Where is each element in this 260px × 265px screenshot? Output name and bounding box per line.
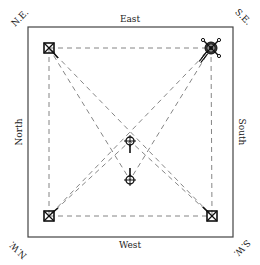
label-sw: S.W. (232, 238, 253, 259)
corner-marker-se (200, 38, 221, 62)
corner-marker-nw (44, 208, 58, 221)
corner-marker-ne (44, 43, 58, 58)
label-north: North (14, 118, 24, 145)
label-nw: N.W. (7, 239, 29, 261)
center-marker-top (124, 135, 136, 153)
label-south: South (237, 119, 247, 146)
label-se: S.E. (233, 7, 253, 27)
sighting-diagram: East West North South N.E. S.E. N.W. S.W… (0, 0, 260, 265)
label-west: West (119, 240, 141, 250)
label-ne: N.E. (9, 7, 30, 28)
corner-marker-sw (203, 207, 217, 221)
label-east: East (120, 14, 141, 24)
sight-lines (49, 48, 212, 216)
center-marker-bottom (124, 168, 136, 186)
